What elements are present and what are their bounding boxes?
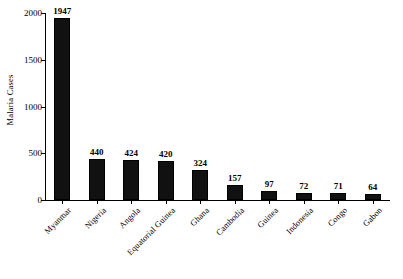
bar-group[interactable]: 420	[158, 13, 174, 200]
x-axis-category-label: Angola	[117, 205, 142, 230]
bar-value-label: 157	[228, 173, 242, 183]
bar-group[interactable]: 72	[296, 13, 312, 200]
x-axis-tick	[62, 200, 63, 204]
x-axis-tick	[97, 200, 98, 204]
bar-value-label: 72	[299, 181, 308, 191]
bar[interactable]	[158, 161, 174, 200]
x-axis-category-label: Indonesia	[284, 205, 315, 236]
bar[interactable]	[296, 193, 312, 200]
y-axis-tick-label: 1000	[24, 102, 42, 112]
bar[interactable]	[54, 18, 70, 200]
bar-group[interactable]: 424	[123, 13, 139, 200]
bar-group[interactable]: 1947	[54, 13, 70, 200]
x-axis-tick	[235, 200, 236, 204]
x-axis-category-label: Ghana	[188, 205, 211, 228]
y-axis-tick-label: 1500	[24, 55, 42, 65]
bar-value-label: 424	[125, 148, 139, 158]
x-axis-category-label: Congo	[326, 205, 349, 228]
bar[interactable]	[192, 170, 208, 200]
y-axis-tick-label: 500	[29, 148, 43, 158]
bar-group[interactable]: 71	[330, 13, 346, 200]
bar-value-label: 440	[90, 147, 104, 157]
bar[interactable]	[227, 185, 243, 200]
bar-value-label: 324	[194, 158, 208, 168]
x-axis-category-label: Cambodia	[213, 205, 245, 237]
bar-group[interactable]: 97	[261, 13, 277, 200]
malaria-cases-bar-chart: Malaria Cases 0500100015002000 194744042…	[0, 0, 403, 279]
x-axis-tick	[373, 200, 374, 204]
bar-group[interactable]: 324	[192, 13, 208, 200]
plot-area: 194744042442032415797727164	[45, 13, 390, 200]
x-axis-category-label: Guinea	[255, 205, 280, 230]
bar-group[interactable]: 157	[227, 13, 243, 200]
x-axis-tick	[166, 200, 167, 204]
x-axis-category-label: Nigeria	[82, 205, 108, 231]
x-axis-category-label: Myanmar	[42, 205, 73, 236]
x-axis-tick	[338, 200, 339, 204]
bar-group[interactable]: 440	[89, 13, 105, 200]
x-axis-tick	[269, 200, 270, 204]
bar-value-label: 64	[368, 182, 377, 192]
bar[interactable]	[365, 194, 381, 200]
bar-value-label: 71	[334, 181, 343, 191]
x-axis-category-labels: MyanmarNigeriaAngolaEquatorial GuineaGha…	[45, 205, 390, 279]
bar-value-label: 97	[265, 179, 274, 189]
x-axis-tick	[304, 200, 305, 204]
bar-group[interactable]: 64	[365, 13, 381, 200]
x-axis-tick	[200, 200, 201, 204]
bar[interactable]	[89, 159, 105, 200]
bar-value-label: 1947	[53, 6, 71, 16]
bar[interactable]	[261, 191, 277, 200]
x-axis-tick	[131, 200, 132, 204]
bar[interactable]	[123, 160, 139, 200]
bar-value-label: 420	[159, 149, 173, 159]
y-axis-tick-label: 2000	[24, 8, 42, 18]
y-axis-tick-labels: 0500100015002000	[14, 0, 42, 210]
y-axis-tick	[41, 200, 45, 201]
y-axis-title-text: Malaria Cases	[4, 75, 14, 126]
x-axis-category-label: Gabon	[360, 205, 383, 228]
bar[interactable]	[330, 193, 346, 200]
